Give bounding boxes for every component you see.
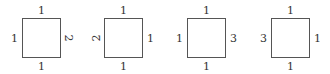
label-bottom: 1 bbox=[203, 61, 210, 72]
square-1: 1 1 2 1 bbox=[22, 18, 61, 58]
label-left: 1 bbox=[176, 33, 183, 44]
label-left: 2 bbox=[91, 35, 102, 42]
label-top: 1 bbox=[120, 5, 127, 16]
label-top: 1 bbox=[38, 5, 45, 16]
label-top: 1 bbox=[287, 5, 294, 16]
label-bottom: 1 bbox=[120, 61, 127, 72]
square-2: 1 2 1 1 bbox=[104, 18, 143, 58]
label-left: 3 bbox=[260, 33, 267, 44]
square-4: 1 3 1 1 bbox=[271, 18, 310, 58]
label-right: 3 bbox=[230, 33, 237, 44]
label-left: 1 bbox=[11, 33, 18, 44]
label-right: 1 bbox=[314, 33, 321, 44]
label-bottom: 1 bbox=[38, 61, 45, 72]
label-right: 1 bbox=[147, 33, 154, 44]
label-right: 2 bbox=[63, 35, 74, 42]
square-3: 1 1 3 1 bbox=[187, 18, 226, 58]
label-top: 1 bbox=[203, 5, 210, 16]
label-bottom: 1 bbox=[287, 61, 294, 72]
